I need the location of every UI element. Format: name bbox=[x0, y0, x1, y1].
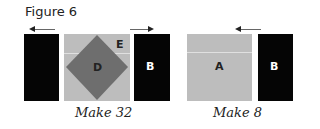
block-d-with-e-corners: D E bbox=[64, 34, 130, 101]
figure-title: Figure 6 bbox=[25, 4, 77, 19]
arrow-left-2-head-icon bbox=[235, 26, 241, 32]
arrow-left-head-icon bbox=[29, 26, 35, 32]
caption-make-8: Make 8 bbox=[213, 105, 262, 120]
strip-b-right-unit: B bbox=[258, 34, 293, 101]
arrow-right-head-icon bbox=[148, 26, 154, 32]
label-d: D bbox=[93, 61, 102, 74]
label-b-2: B bbox=[270, 60, 278, 73]
arrow-left-2 bbox=[239, 29, 261, 30]
arrow-right bbox=[130, 29, 150, 30]
block-a: A bbox=[187, 34, 252, 101]
label-e: E bbox=[116, 38, 124, 51]
arrow-left bbox=[33, 29, 55, 30]
strip-left-black bbox=[24, 34, 59, 101]
label-a: A bbox=[215, 60, 224, 73]
strip-b-left-unit: B bbox=[134, 34, 170, 101]
caption-make-32: Make 32 bbox=[75, 105, 132, 120]
label-b: B bbox=[146, 60, 154, 73]
seam-line bbox=[187, 52, 252, 53]
